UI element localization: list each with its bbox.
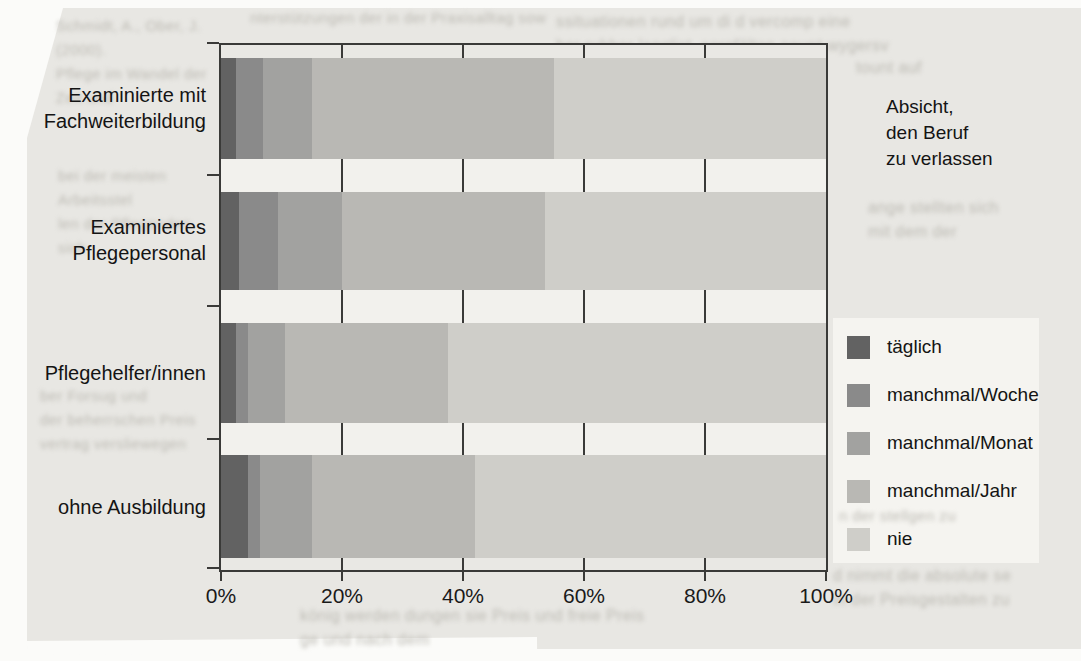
- chart-rows: [221, 45, 826, 570]
- page-showthrough-text: könig werden dungen sie Preis und freie …: [300, 604, 740, 652]
- bar-segment-nie: [545, 192, 826, 290]
- x-axis-label: 80%: [684, 584, 726, 608]
- x-axis-tick: [462, 571, 464, 581]
- bar-segment-täglich: [221, 455, 248, 558]
- legend-label: manchmal/Woche: [887, 384, 1039, 406]
- page-showthrough-text: tount auf: [856, 56, 1056, 80]
- bar-segment-manchmal-jahr: [342, 192, 545, 290]
- page-showthrough-text: d nimmt die absolute se in der Preisgest…: [833, 564, 1078, 612]
- x-axis-label: 100%: [799, 584, 853, 608]
- bar-row: [221, 455, 826, 558]
- x-axis-label: 60%: [563, 584, 605, 608]
- y-axis-tick: [207, 438, 219, 440]
- category-label: ohne Ausbildung: [28, 494, 206, 520]
- row-gap: [221, 290, 826, 323]
- bar-segment-manchmal-woche: [236, 323, 248, 423]
- legend-item: manchmal/Monat: [847, 431, 1033, 455]
- y-axis-tick: [207, 305, 219, 307]
- chart-annotation: Absicht, den Beruf zu verlassen: [886, 94, 993, 172]
- bar-segment-täglich: [221, 58, 236, 159]
- x-axis-tick: [825, 571, 827, 581]
- bar-row: [221, 58, 826, 159]
- category-label: Examiniertes Pflegepersonal: [28, 214, 206, 266]
- page-showthrough-text: ange stellten sich mit dem der: [868, 196, 1073, 244]
- bar-segment-nie: [475, 455, 826, 558]
- legend-swatch-icon: [847, 480, 870, 503]
- page-showthrough-text: n der stellgen zu: [839, 504, 1019, 528]
- x-axis-label: 20%: [321, 584, 363, 608]
- bar-segment-manchmal-jahr: [285, 323, 448, 423]
- bar-segment-manchmal-jahr: [312, 455, 475, 558]
- legend-item: manchmal/Woche: [847, 383, 1039, 407]
- legend-label: manchmal/Monat: [887, 432, 1033, 454]
- row-gap: [221, 45, 826, 58]
- bar-segment-manchmal-monat: [248, 323, 284, 423]
- x-axis-tick: [583, 571, 585, 581]
- legend-label: manchmal/Jahr: [887, 480, 1017, 502]
- legend-label: nie: [887, 528, 912, 550]
- legend-item: nie: [847, 527, 912, 551]
- bar-segment-manchmal-woche: [236, 58, 263, 159]
- legend-swatch-icon: [847, 384, 870, 407]
- scanned-page: Schmidt, A., Ober, J. (2000). Pflege im …: [0, 0, 1081, 661]
- legend-item: manchmal/Jahr: [847, 479, 1017, 503]
- x-axis-tick: [704, 571, 706, 581]
- bar-segment-täglich: [221, 323, 236, 423]
- bar-row: [221, 323, 826, 423]
- y-axis-tick: [207, 567, 219, 569]
- bar-row: [221, 192, 826, 290]
- row-gap: [221, 423, 826, 455]
- legend-swatch-icon: [847, 432, 870, 455]
- bar-segment-manchmal-jahr: [312, 58, 554, 159]
- legend-swatch-icon: [847, 336, 870, 359]
- y-axis-tick: [207, 42, 219, 44]
- x-axis-tick: [220, 571, 222, 581]
- legend-item: täglich: [847, 335, 942, 359]
- x-axis-tick: [341, 571, 343, 581]
- bar-segment-täglich: [221, 192, 239, 290]
- x-axis-label: 40%: [442, 584, 484, 608]
- bar-segment-manchmal-monat: [260, 455, 311, 558]
- legend-swatch-icon: [847, 528, 870, 551]
- bar-segment-manchmal-woche: [248, 455, 260, 558]
- y-axis-tick: [207, 174, 219, 176]
- category-label: Pflegehelfer/innen: [28, 360, 206, 386]
- page-showthrough-text: ber Forsug und der beherrschen Preis ver…: [40, 384, 210, 456]
- row-gap: [221, 558, 826, 570]
- row-gap: [221, 159, 826, 192]
- chart-legend: täglichmanchmal/Wochemanchmal/Monatmanch…: [833, 318, 1039, 563]
- bar-segment-manchmal-monat: [263, 58, 311, 159]
- legend-label: täglich: [887, 336, 942, 358]
- page-showthrough-text: nterstützungen der in der Praxisalltag s…: [250, 6, 550, 30]
- x-axis-label: 0%: [206, 584, 236, 608]
- bar-segment-manchmal-monat: [278, 192, 342, 290]
- category-label: Examinierte mit Fachweiterbildung: [28, 82, 206, 134]
- bar-segment-nie: [554, 58, 826, 159]
- bar-segment-manchmal-woche: [239, 192, 278, 290]
- bar-segment-nie: [448, 323, 826, 423]
- chart-plot-area: [219, 43, 828, 572]
